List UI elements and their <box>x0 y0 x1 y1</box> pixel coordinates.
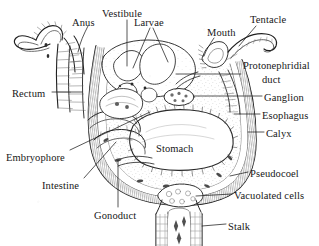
rectum-tube <box>57 44 86 118</box>
label-protonephridial-duct: Protonephridial <box>243 60 310 71</box>
anus-opening <box>14 22 84 74</box>
entoproct-anatomy-figure: Anus Vestibule Larvae Mouth Tentacle Pro… <box>0 0 319 246</box>
label-calyx: Calyx <box>266 128 292 139</box>
label-ganglion: Ganglion <box>264 92 304 103</box>
label-intestine: Intestine <box>42 180 79 191</box>
label-stomach: Stomach <box>156 143 193 154</box>
label-gonoduct: Gonoduct <box>94 210 136 221</box>
label-anus: Anus <box>72 17 95 28</box>
label-larvae: Larvae <box>134 17 164 28</box>
mouth-opening <box>198 42 228 68</box>
label-tentacle: Tentacle <box>250 14 286 25</box>
label-vacuolated-cells: Vacuolated cells <box>234 190 304 201</box>
label-embryophore: Embryophore <box>6 152 65 163</box>
label-protonephridial-duct-line2: duct <box>262 74 280 85</box>
ganglion-mass <box>164 89 194 106</box>
label-pseudocoel: Pseudocoel <box>250 168 299 179</box>
label-esophagus: Esophagus <box>262 110 308 121</box>
label-stalk: Stalk <box>228 221 250 232</box>
anatomy-illustration <box>0 0 319 246</box>
label-mouth: Mouth <box>207 27 236 38</box>
label-rectum: Rectum <box>12 88 45 99</box>
